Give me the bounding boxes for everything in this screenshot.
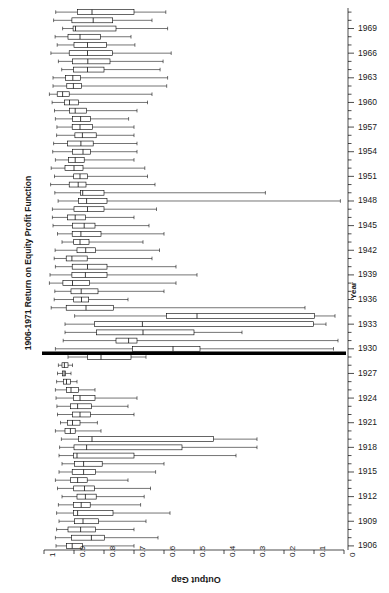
boxplot-row: [57, 125, 134, 130]
y-tick-label: 1912: [358, 491, 377, 501]
boxplot-row: [65, 322, 326, 327]
boxplot-row: [57, 527, 134, 532]
boxplot-row: [58, 363, 72, 368]
y-tick-label: 1918: [358, 442, 377, 452]
y-tick-label: 1921: [358, 417, 377, 427]
boxplot-row: [52, 100, 147, 105]
boxplot-row: [58, 502, 140, 507]
boxplot-row: [58, 231, 165, 236]
boxplot-row: [50, 272, 197, 277]
boxplot-row: [54, 18, 152, 23]
boxplot-row: [58, 486, 151, 491]
y-tick-label: 1933: [358, 319, 377, 329]
boxplot-row: [55, 34, 131, 39]
boxplot-row: [57, 511, 170, 516]
plot-area: [0, 0, 389, 593]
boxplot-row: [55, 157, 134, 162]
x-tick-label: 0: [348, 553, 357, 557]
x-tick-label: 0.7: [138, 546, 147, 557]
boxplot-row: [58, 371, 72, 376]
y-tick-label: 1942: [358, 245, 377, 255]
x-tick-label: 0.6: [168, 546, 177, 557]
boxplot-row: [58, 412, 135, 417]
x-tick-label: 0.1: [318, 546, 327, 557]
boxplot-row: [58, 199, 340, 204]
y-tick-label: 1966: [358, 48, 377, 58]
boxplot-row: [55, 264, 176, 269]
boxplot-row: [58, 59, 163, 64]
boxplot-layer: [42, 10, 346, 549]
boxplot-row: [62, 461, 164, 466]
boxplot-row: [55, 346, 333, 351]
y-tick-label: 1906: [358, 540, 377, 550]
y-tick-label: 1927: [358, 368, 377, 378]
boxplot-row: [52, 215, 134, 220]
x-tick-label: 1: [48, 553, 57, 557]
boxplot-row: [54, 297, 128, 302]
boxplot-row: [62, 494, 144, 499]
boxplot-row: [59, 519, 146, 524]
x-tick-label: 0.9: [78, 546, 87, 557]
boxplot-row: [51, 51, 171, 56]
y-tick-label: 1945: [358, 220, 377, 230]
x-tick-label: 0.3: [258, 546, 267, 557]
boxplot-row: [65, 330, 242, 335]
boxplot-row: [55, 174, 148, 179]
boxplot-row: [61, 420, 98, 425]
boxplot-row: [62, 240, 143, 245]
boxplot-row: [55, 387, 95, 392]
y-axis-title: Year: [349, 271, 358, 311]
y-tick-label: 1969: [358, 23, 377, 33]
boxplot-row: [57, 42, 135, 47]
boxplot-row: [63, 26, 168, 31]
y-tick-label: 1963: [358, 72, 377, 82]
boxplot-row: [54, 256, 152, 261]
boxplot-row: [53, 149, 137, 154]
x-axis-title: Output Gap: [96, 575, 296, 585]
boxplot-row: [55, 535, 158, 540]
boxplot-row: [68, 355, 146, 360]
y-tick-label: 1936: [358, 294, 377, 304]
y-tick-label: 1957: [358, 122, 377, 132]
boxplot-row: [55, 428, 101, 433]
x-tick-label: 0.2: [288, 546, 297, 557]
boxplot-row: [51, 305, 305, 310]
boxplot-row: [55, 108, 138, 113]
boxplot-row: [55, 289, 164, 294]
boxplot-row: [56, 543, 134, 548]
y-tick-label: 1960: [358, 97, 377, 107]
boxplot-row: [49, 92, 152, 97]
boxplot-row: [55, 116, 128, 121]
boxplot-row: [59, 453, 236, 458]
boxplot-row: [54, 141, 137, 146]
boxplot-row: [57, 133, 134, 138]
y-tick-label: 1954: [358, 146, 377, 156]
boxplot-row: [57, 404, 128, 409]
boxplot-row: [63, 338, 338, 343]
y-tick-label: 1930: [358, 343, 377, 353]
boxplot-row: [55, 478, 128, 483]
y-tick-label: 1948: [358, 195, 377, 205]
y-tick-label: 1915: [358, 466, 377, 476]
boxplot-row: [53, 84, 167, 89]
boxplot-row: [51, 166, 145, 171]
chart-title: 1906-1971 Return on Equity Profit Functi…: [23, 173, 33, 353]
boxplot-row: [60, 445, 257, 450]
x-tick-label: 0.8: [108, 546, 117, 557]
boxplot-row: [51, 182, 155, 187]
boxplot-row: [52, 207, 156, 212]
boxplot-row: [57, 379, 77, 384]
y-tick-label: 1951: [358, 171, 377, 181]
chart-figure: 1906-1971 Return on Equity Profit Functi…: [0, 0, 389, 593]
boxplot-row: [49, 281, 176, 286]
boxplot-row: [61, 437, 257, 442]
x-tick-label: 0.5: [198, 546, 207, 557]
boxplot-row: [59, 470, 156, 475]
x-tick-label: 0.4: [228, 546, 237, 557]
boxplot-row: [55, 248, 159, 253]
boxplot-row: [56, 396, 137, 401]
y-tick-label: 1939: [358, 269, 377, 279]
y-tick-label: 1909: [358, 516, 377, 526]
boxplot-row: [53, 75, 168, 80]
boxplot-row: [62, 67, 160, 72]
